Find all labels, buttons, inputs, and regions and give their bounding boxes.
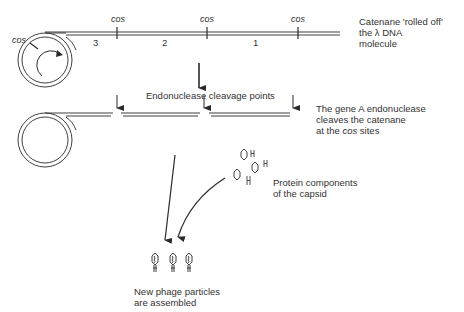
phage-icon bbox=[170, 253, 176, 272]
protein-components-caption: Protein components of the capsid bbox=[273, 177, 358, 199]
endonuclease-caption: The gene A endonuclease cleaves the cate… bbox=[316, 103, 426, 136]
phage-icon bbox=[186, 253, 192, 272]
rolling-circle-dna bbox=[18, 33, 76, 87]
catenane-strand bbox=[45, 32, 340, 35]
cos-label: cos bbox=[12, 35, 26, 45]
cleaved-rolling-circle bbox=[18, 113, 76, 167]
cos-label: cos bbox=[291, 14, 305, 24]
phage-particles-caption: New phage particles are assembled bbox=[134, 286, 220, 308]
catenane-caption: Catenane 'rolled off' the λ DNA molecule bbox=[359, 16, 443, 49]
cos-label: cos bbox=[111, 14, 125, 24]
segment-number: 1 bbox=[253, 37, 258, 48]
phage-particle-icons bbox=[152, 253, 192, 272]
segment-number: 2 bbox=[162, 37, 167, 48]
cleavage-points-label: Endonuclease cleavage points bbox=[146, 90, 275, 101]
phage-icon bbox=[152, 253, 158, 272]
cos-label: cos bbox=[200, 14, 214, 24]
dna-to-phage-arrow bbox=[165, 155, 175, 240]
cleaved-catenane-segments bbox=[45, 113, 290, 116]
capsid-tail-icons bbox=[247, 150, 267, 185]
segment-number: 3 bbox=[93, 37, 98, 48]
protein-to-phage-arrow bbox=[178, 178, 225, 237]
rotation-arrow-icon bbox=[37, 50, 63, 76]
